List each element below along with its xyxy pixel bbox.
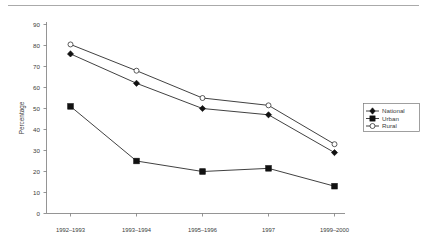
- data-point: [68, 104, 74, 110]
- data-point: [265, 112, 271, 118]
- legend-entry-urban[interactable]: Urban: [366, 115, 399, 122]
- data-point: [67, 51, 73, 57]
- line-chart: 0 10 20 30 40 50 60 70 80 90 Percentage …: [0, 0, 427, 251]
- data-point: [133, 80, 139, 86]
- legend-label-rural: Rural: [382, 122, 397, 129]
- legend-label-national: National: [382, 107, 405, 114]
- data-point: [200, 169, 206, 175]
- y-tick-label-90: 90: [33, 21, 40, 28]
- y-axis-title: Percentage: [18, 101, 26, 134]
- x-tick-marks: [71, 214, 335, 217]
- y-tick-label-50: 50: [33, 105, 40, 112]
- chart-legend: National Urban Rural: [364, 104, 420, 132]
- data-point: [331, 150, 337, 156]
- data-point: [68, 42, 73, 47]
- y-tick-label-80: 80: [33, 42, 40, 49]
- data-point: [266, 103, 271, 108]
- chart-figure: 0 10 20 30 40 50 60 70 80 90 Percentage …: [0, 0, 427, 251]
- circle-icon: [370, 124, 375, 129]
- data-point: [134, 158, 140, 164]
- x-tick-label-2: 1993–1994: [122, 227, 152, 233]
- y-tick-marks: [44, 25, 47, 214]
- data-point: [332, 183, 338, 189]
- series-line-rural: [71, 44, 335, 144]
- square-icon: [370, 116, 375, 121]
- y-tick-label-20: 20: [33, 168, 40, 175]
- data-point: [266, 166, 272, 172]
- y-tick-label-10: 10: [33, 189, 40, 196]
- series-line-national: [71, 54, 335, 153]
- legend-entry-national[interactable]: National: [366, 107, 405, 114]
- y-tick-label-70: 70: [33, 63, 40, 70]
- legend-label-urban: Urban: [382, 115, 399, 122]
- y-tick-label-30: 30: [33, 147, 40, 154]
- series-markers-national: [67, 51, 337, 156]
- data-point: [199, 105, 205, 111]
- x-tick-label-4: 1997: [262, 227, 275, 233]
- x-tick-label-5: 1999–2000: [320, 227, 349, 233]
- data-point: [332, 142, 337, 147]
- data-point: [134, 68, 139, 73]
- y-tick-label-0: 0: [37, 210, 41, 217]
- y-tick-label-40: 40: [33, 126, 40, 133]
- x-tick-label-3: 1995–1996: [188, 227, 217, 233]
- data-point: [200, 96, 205, 101]
- x-tick-label-1: 1992–1993: [56, 227, 85, 233]
- y-tick-label-60: 60: [33, 84, 40, 91]
